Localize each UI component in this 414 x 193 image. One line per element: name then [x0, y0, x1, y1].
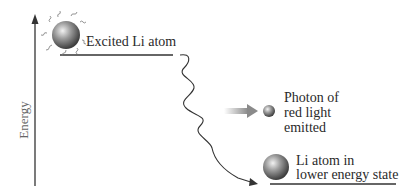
energy-axis-label: Energy [16, 100, 32, 140]
photon-icon [263, 105, 275, 117]
photon-arrow [224, 104, 258, 118]
excited-atom-icon [41, 11, 86, 56]
ground-atom-icon [263, 154, 289, 180]
lower-state-label-line-2: lower energy state [296, 167, 398, 183]
excited-atom-label: Excited Li atom [86, 34, 176, 50]
photon-label-line-3: emitted [284, 120, 326, 136]
arrow-up-icon [32, 14, 39, 24]
photon-label-line-2: red light [284, 105, 331, 121]
transition-wave [180, 55, 255, 183]
photon-label-line-1: Photon of [284, 90, 339, 106]
arrow-down-icon [249, 178, 258, 186]
energy-axis [32, 14, 39, 186]
